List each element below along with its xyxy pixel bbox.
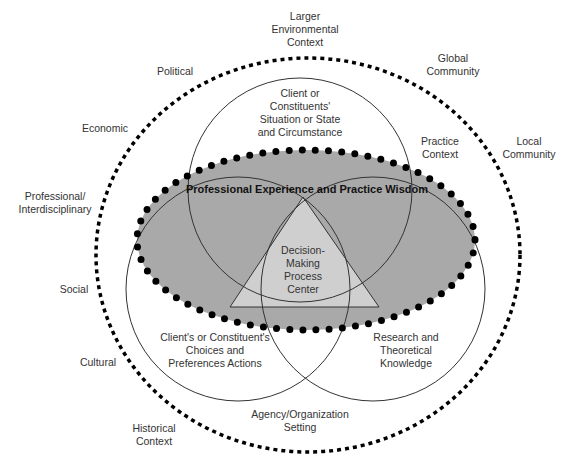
label-local: Local Community bbox=[494, 135, 564, 161]
label-political: Political bbox=[140, 65, 210, 78]
label-historical: Historical Context bbox=[124, 422, 184, 448]
label-practice-wisdom: Professional Experience and Practice Wis… bbox=[186, 183, 426, 196]
label-cultural: Cultural bbox=[68, 356, 128, 369]
label-economic: Economic bbox=[70, 122, 140, 135]
diagram-canvas bbox=[0, 0, 576, 466]
label-social: Social bbox=[50, 283, 98, 296]
label-larger-context: Larger Environmental Context bbox=[255, 10, 355, 49]
label-research: Research and Theoretical Knowledge bbox=[356, 331, 456, 370]
label-practice-context: Practice Context bbox=[410, 135, 470, 161]
label-choices: Client's or Constituent's Choices and Pr… bbox=[150, 331, 280, 370]
label-professional: Professional/ Interdisciplinary bbox=[12, 190, 98, 216]
label-decision-center: Decision- Making Process Center bbox=[270, 244, 336, 296]
label-situation: Client or Constituents' Situation or Sta… bbox=[240, 87, 360, 139]
label-agency-setting: Agency/Organization Setting bbox=[240, 408, 360, 434]
label-global: Global Community bbox=[418, 52, 488, 78]
